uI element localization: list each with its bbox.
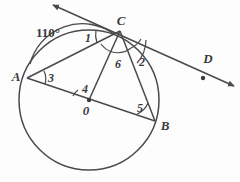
angle-label-3: 3 [48, 72, 54, 84]
angle-3-arc [44, 71, 46, 84]
angle-label-5: 5 [137, 102, 143, 114]
point-d-dot [201, 76, 205, 80]
point-label-d: D [203, 52, 212, 65]
angle-label-4: 4 [82, 83, 88, 95]
angle-label-1: 1 [85, 32, 91, 44]
angle-1-arc [96, 30, 97, 43]
point-label-c: C [117, 14, 126, 27]
tangent-line-cd [53, 5, 234, 86]
angle-6-arc [101, 44, 112, 52]
arc-measure-label: 110° [36, 26, 60, 39]
angle-label-2: 2 [139, 56, 145, 68]
geometry-figure: 110° A B C D 0 1 2 3 4 5 6 [0, 0, 240, 182]
point-label-a: A [12, 70, 21, 83]
angle-label-6: 6 [115, 58, 121, 70]
center-label-o: 0 [83, 104, 90, 117]
point-label-b: B [161, 119, 170, 132]
